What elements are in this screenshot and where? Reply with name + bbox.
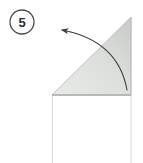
step-badge-label: 5 — [18, 15, 25, 30]
diagram-canvas: 5 — [0, 0, 143, 163]
origami-step-figure: 5 — [0, 0, 143, 163]
step-number-badge: 5 — [10, 10, 34, 34]
paper-sheet-body — [53, 95, 132, 163]
folded-triangle-flap — [52, 17, 131, 95]
